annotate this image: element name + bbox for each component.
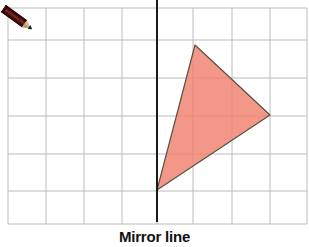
- mirror-line-caption: Mirror line: [0, 228, 309, 245]
- worksheet-canvas: Mirror line: [0, 0, 309, 247]
- pencil-icon: [0, 0, 309, 247]
